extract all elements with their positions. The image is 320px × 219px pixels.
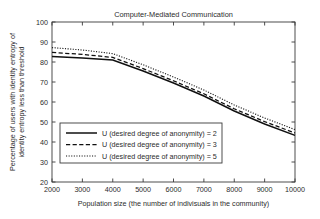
x-tick-label: 3000 [74,185,90,194]
y-tick-label: 50 [40,118,48,127]
y-tick-label: 100 [36,18,48,27]
x-tick-label: 4000 [105,185,121,194]
x-tick-label: 7000 [196,185,212,194]
x-tick-label: 2000 [44,185,60,194]
y-axis-label-line2: identity entropy less than threshold [17,46,26,157]
legend-label-1: U (desired degree of anonymity) = 2 [102,129,217,138]
x-axis-label: Population size (the number of indivisua… [78,199,269,208]
chart-title: Computer-Mediated Communication [114,10,233,19]
x-tick-label: 5000 [135,185,151,194]
legend-label-3: U (desired degree of anonymity) = 5 [102,152,217,161]
chart-canvas: Computer-Mediated Communication 20304050… [0,0,320,219]
x-tick-label: 9000 [257,185,273,194]
x-tick-label: 10000 [285,185,305,194]
y-tick-label: 60 [40,98,48,107]
figure-container: Computer-Mediated Communication 20304050… [0,0,320,219]
x-tick-label: 8000 [226,185,242,194]
legend-label-2: U (desired degree of anonymity) = 3 [102,140,217,149]
chart-legend[interactable]: U (desired degree of anonymity) = 2U (de… [60,123,222,163]
y-tick-label: 30 [40,158,48,167]
y-tick-label: 40 [40,138,48,147]
y-tick-label: 80 [40,58,48,67]
y-tick-label: 90 [40,38,48,47]
y-tick-label: 70 [40,78,48,87]
x-tick-label: 6000 [166,185,182,194]
